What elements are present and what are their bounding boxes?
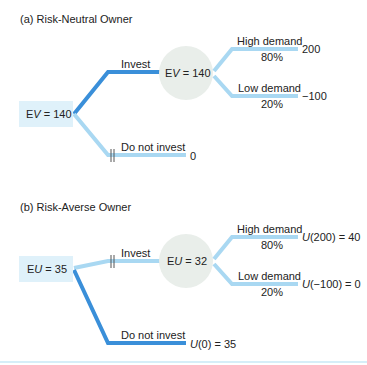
high-demand-prob: 80% [261,51,283,63]
not-invest-label: Do not invest [121,141,185,153]
high-demand-label: High demand [237,35,302,47]
panel-b-title: (b) Risk-Averse Owner [20,201,131,213]
high-demand-branch [214,237,298,259]
not-invest-payoff: 0 [190,150,196,162]
low-demand-prob: 20% [261,286,283,298]
high-demand-prob: 80% [261,239,283,251]
invest-branch-chosen [74,72,160,114]
invest-label: Invest [121,247,150,259]
high-demand-payoff: 200 [302,43,320,55]
low-demand-prob: 20% [261,98,283,110]
panel-b: (b) Risk-Averse Owner EU = 35 EU = 32 In… [19,201,361,350]
panel-a: (a) Risk-Neutral Owner EV = 140 EV = 140… [19,13,327,162]
chance-node-label: EV = 140 [165,67,211,79]
not-invest-payoff: U(0) = 35 [190,338,236,350]
bottom-divider [0,361,367,363]
low-demand-payoff: −100 [302,90,327,102]
low-demand-label: Low demand [238,82,301,94]
decision-node-label: EU = 35 [27,263,67,275]
not-invest-label: Do not invest [121,329,185,341]
chance-node-label: EU = 32 [167,255,207,267]
decision-node-label: EV = 140 [26,108,72,120]
low-demand-payoff: U(−100) = 0 [302,278,361,290]
invest-label: Invest [121,58,150,70]
high-demand-payoff: U(200) = 40 [302,231,360,243]
invest-branch [74,261,160,268]
panel-a-title: (a) Risk-Neutral Owner [20,13,133,25]
high-demand-label: High demand [237,223,302,235]
decision-tree-figure: (a) Risk-Neutral Owner EV = 140 EV = 140… [0,0,367,365]
high-demand-branch [214,49,298,71]
low-demand-label: Low demand [238,270,301,282]
